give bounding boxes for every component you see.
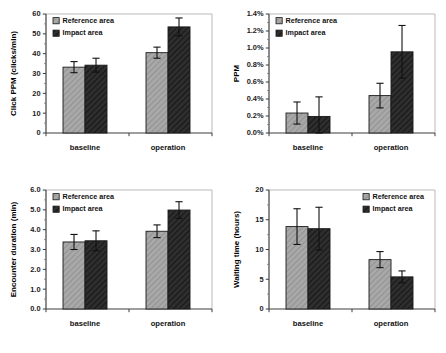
chart-svg-waiting-time: 05101520Waiting time (hours)baselineoper… [223, 176, 446, 352]
bar-impact-area [85, 65, 107, 133]
y-tick-label: 0.6% [247, 77, 264, 86]
chart-panel-waiting-time: 05101520Waiting time (hours)baselineoper… [223, 176, 446, 352]
legend-label-reference-area: Reference area [286, 16, 339, 25]
bar-reference-area [63, 242, 85, 309]
x-category-label: operation [151, 143, 186, 152]
y-tick-label: 0 [36, 128, 40, 137]
legend-swatch-reference-area [53, 18, 59, 24]
y-tick-label: 6.0 [30, 185, 40, 194]
y-tick-label: 3.0 [30, 245, 40, 254]
bar-reference-area [63, 67, 85, 133]
legend-swatch-impact-area [53, 206, 59, 212]
y-tick-label: 1.0 [30, 285, 40, 294]
bars-group [63, 202, 190, 309]
legend-label-impact-area: Impact area [63, 28, 104, 37]
y-tick-label: 20 [32, 89, 40, 98]
y-axis-title: Click PPM (clicks/min) [9, 31, 18, 116]
legend-swatch-reference-area [363, 194, 369, 200]
y-tick-label: 1.0% [247, 43, 264, 52]
legend-swatch-impact-area [53, 30, 59, 36]
bar-impact-area [168, 27, 190, 133]
y-axis-ticks: 05101520 [255, 185, 269, 313]
x-category-label: operation [374, 319, 409, 328]
chart-panel-click-ppm: 0102030405060Click PPM (clicks/min)basel… [0, 0, 223, 176]
legend-swatch-reference-area [53, 194, 59, 200]
chart-svg-encounter-duration: 0.01.02.03.04.05.06.0Encounter duration … [0, 176, 223, 352]
bar-impact-area [168, 210, 190, 309]
legend-label-reference-area: Reference area [373, 192, 426, 201]
legend: Reference areaImpact area [53, 192, 115, 214]
legend-swatch-reference-area [276, 18, 282, 24]
legend: Reference areaImpact area [53, 16, 115, 38]
legend-swatch-impact-area [276, 30, 282, 36]
chart-svg-click-ppm: 0102030405060Click PPM (clicks/min)basel… [0, 0, 223, 176]
bar-reference-area [146, 231, 168, 309]
y-tick-label: 1.2% [247, 26, 264, 35]
bars-group [286, 207, 413, 309]
x-category-label: operation [374, 143, 409, 152]
figure-four-panel-bar-charts: 0102030405060Click PPM (clicks/min)basel… [0, 0, 446, 353]
chart-panel-encounter-duration: 0.01.02.03.04.05.06.0Encounter duration … [0, 176, 223, 352]
legend-label-impact-area: Impact area [286, 28, 327, 37]
x-category-label: operation [151, 319, 186, 328]
y-tick-label: 0.2% [247, 111, 264, 120]
y-tick-label: 15 [255, 215, 263, 224]
y-axis-title: Encounter duration (min) [9, 201, 18, 297]
y-tick-label: 1.4% [247, 9, 264, 18]
y-axis-title: Waiting time (hours) [232, 211, 241, 288]
chart-panel-ppm-percent: 0.0%0.2%0.4%0.6%0.8%1.0%1.2%1.4%PPMbasel… [223, 0, 446, 176]
y-tick-label: 0.8% [247, 60, 264, 69]
y-tick-label: 4.0 [30, 225, 40, 234]
y-tick-label: 50 [32, 29, 40, 38]
legend-label-reference-area: Reference area [63, 16, 116, 25]
legend: Reference areaImpact area [276, 16, 338, 38]
y-tick-label: 5.0 [30, 205, 40, 214]
y-tick-label: 30 [32, 69, 40, 78]
y-tick-label: 0 [259, 304, 263, 313]
y-axis-title: PPM [232, 65, 241, 83]
y-tick-label: 0.0% [247, 128, 264, 137]
y-tick-label: 60 [32, 9, 40, 18]
y-tick-label: 0.0 [30, 304, 40, 313]
y-tick-label: 10 [255, 245, 263, 254]
legend: Reference areaImpact area [363, 192, 425, 214]
y-tick-label: 5 [259, 275, 263, 284]
legend-label-impact-area: Impact area [63, 204, 104, 213]
legend-label-impact-area: Impact area [373, 204, 414, 213]
x-category-label: baseline [70, 143, 100, 152]
y-tick-label: 40 [32, 49, 40, 58]
y-axis-ticks: 0.0%0.2%0.4%0.6%0.8%1.0%1.2%1.4% [247, 9, 269, 137]
y-tick-label: 10 [32, 109, 40, 118]
y-axis-ticks: 0.01.02.03.04.05.06.0 [30, 185, 46, 313]
x-category-label: baseline [293, 143, 323, 152]
y-tick-label: 20 [255, 185, 263, 194]
legend-swatch-impact-area [363, 206, 369, 212]
y-tick-label: 2.0 [30, 265, 40, 274]
bar-reference-area [146, 53, 168, 133]
legend-label-reference-area: Reference area [63, 192, 116, 201]
bars-group [286, 25, 413, 133]
x-category-label: baseline [293, 319, 323, 328]
chart-svg-ppm-percent: 0.0%0.2%0.4%0.6%0.8%1.0%1.2%1.4%PPMbasel… [223, 0, 446, 176]
x-category-label: baseline [70, 319, 100, 328]
y-tick-label: 0.4% [247, 94, 264, 103]
y-axis-ticks: 0102030405060 [32, 9, 46, 137]
